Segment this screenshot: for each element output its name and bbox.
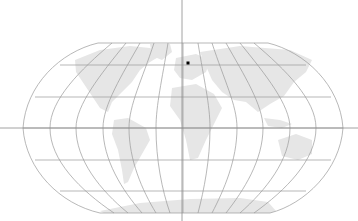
indonesia (264, 118, 292, 128)
africa (170, 84, 222, 160)
land-masses (75, 44, 312, 213)
antarctica (100, 198, 276, 213)
location-marker[interactable] (187, 62, 190, 65)
australia (278, 134, 312, 160)
north-america (75, 46, 160, 112)
world-map[interactable] (0, 0, 358, 221)
